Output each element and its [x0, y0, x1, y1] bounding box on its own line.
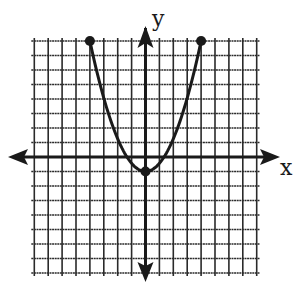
y-axis-label: y	[151, 6, 165, 31]
point-vertex	[141, 167, 151, 177]
point-left-endpoint	[85, 36, 95, 46]
coordinate-graph: x y	[0, 0, 304, 285]
point-right-endpoint	[196, 36, 206, 46]
x-axis-label: x	[280, 155, 293, 180]
